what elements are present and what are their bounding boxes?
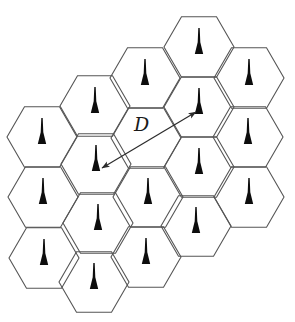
hex-cell-diagram: D — [0, 0, 295, 322]
antenna-mast-icon — [195, 28, 203, 54]
distance-arrow-group: D — [102, 112, 196, 168]
figure-canvas: D — [0, 0, 295, 322]
distance-label: D — [133, 113, 149, 135]
antenna-mast-icon — [144, 178, 152, 204]
antenna-mast-icon — [40, 239, 48, 265]
antenna-mast-icon — [192, 207, 200, 233]
antenna-mast-icon — [141, 59, 149, 85]
antenna-mast-icon — [245, 59, 253, 85]
antenna-mast-icon — [245, 178, 253, 204]
antenna-mast-icon — [39, 178, 47, 204]
antenna-mast-icon — [244, 118, 252, 144]
antenna-mast-icon — [195, 148, 203, 174]
antenna-mast-icon — [142, 238, 150, 264]
antenna-mast-icon — [94, 204, 102, 230]
antenna-mast-icon — [90, 263, 98, 289]
antenna-mast-icon — [92, 145, 100, 171]
antenna-mast-icon — [91, 87, 99, 113]
antenna-mast-icon — [195, 88, 203, 114]
antenna-mast-icon — [38, 118, 46, 144]
